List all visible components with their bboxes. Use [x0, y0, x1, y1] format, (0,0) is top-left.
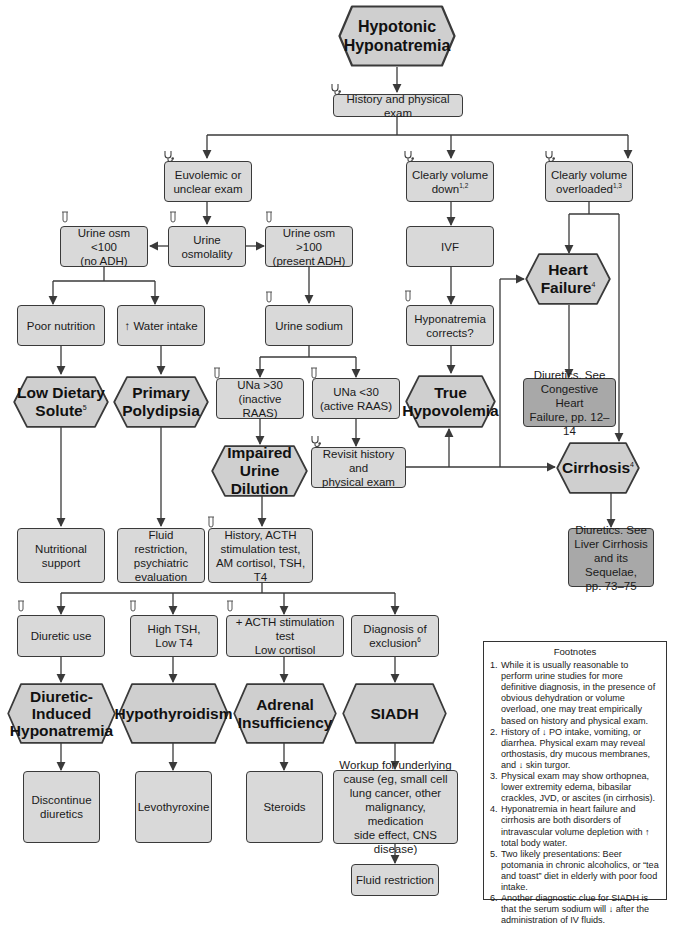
test-tube-icon: [205, 516, 217, 528]
test-tube-icon: [224, 600, 236, 612]
test-tube-icon: [402, 290, 414, 302]
footnote-3: Physical exam may show orthopnea, lower …: [500, 771, 661, 804]
fluid-restriction-box: Fluid restriction: [351, 864, 439, 896]
urine-sodium-box: Urine sodium: [265, 305, 353, 346]
test-tube-icon: [127, 600, 139, 612]
footnote-6: Another diagnostic clue for SIADH is tha…: [500, 893, 661, 926]
siadh-workup-box: Workup for underlyingcause (eg, small ce…: [333, 770, 458, 844]
footnote-2: History of ↓ PO intake, vomiting, or dia…: [500, 727, 661, 771]
diagnosis-exclusion-box: Diagnosis ofexclusion6: [351, 615, 439, 657]
test-tube-icon: [59, 211, 71, 223]
diuretic-use-box: Diuretic use: [17, 615, 105, 657]
footnotes-panel: Footnotes While it is usually reasonable…: [483, 641, 667, 900]
test-tube-icon: [263, 211, 275, 223]
workup-tests-box: History, ACTHstimulation test,AM cortiso…: [208, 528, 313, 583]
urine-osm-low-box: Urine osm <100(no ADH): [60, 226, 148, 267]
water-intake-box: ↑ Water intake: [117, 305, 205, 346]
steroids-box: Steroids: [246, 771, 323, 843]
footnotes-list: While it is usually reasonable to perfor…: [489, 660, 661, 926]
euvolemic-box: Euvolemic orunclear exam: [164, 161, 252, 202]
volume-down-box: Clearly volumedown1,2: [406, 161, 494, 202]
high-tsh-box: High TSH,Low T4: [130, 615, 218, 657]
primary-polydipsia-hex: PrimaryPolydipsia: [113, 376, 209, 428]
acth-test-box: + ACTH stimulation testLow cortisol: [226, 615, 344, 657]
footnote-4: Hyponatremia in heart failure and cirrho…: [500, 804, 661, 848]
urine-osmolality-box: Urineosmolality: [168, 226, 246, 267]
fluid-restriction-psych-box: Fluid restriction,psychiatricevaluation: [117, 528, 205, 583]
ivf-box: IVF: [406, 226, 494, 267]
nutritional-support-box: Nutritionalsupport: [17, 528, 105, 583]
volume-overloaded-box: Clearly volumeoverloaded1,3: [545, 161, 633, 202]
adrenal-insufficiency-hex: AdrenalInsufficiency: [233, 683, 337, 744]
siadh-hex: SIADH: [342, 683, 447, 744]
history-physical-exam-box: History and physical exam: [333, 94, 463, 117]
chf-treatment-box: Diuretics. SeeCongestive HeartFailure, p…: [523, 378, 616, 427]
title-hypotonic-hyponatremia: HypotonicHyponatremia: [338, 5, 456, 67]
hypothyroidism-hex: Hypothyroidism: [118, 683, 229, 744]
footnote-5: Two likely presentations: Beer potomania…: [500, 849, 661, 893]
footnote-1: While it is usually reasonable to perfor…: [500, 660, 661, 727]
una-high-box: UNa >30(inactive RAAS): [216, 378, 304, 419]
stethoscope-icon: [310, 435, 322, 447]
hyponatremia-corrects-box: Hyponatremiacorrects?: [406, 305, 494, 346]
revisit-history-box: Revisit history andphysical exam: [311, 447, 406, 488]
poor-nutrition-box: Poor nutrition: [17, 305, 105, 346]
urine-osm-high-box: Urine osm >100(present ADH): [265, 226, 353, 267]
low-dietary-solute-hex: Low DietarySolute5: [13, 376, 109, 428]
una-low-box: UNa <30(active RAAS): [312, 378, 400, 419]
true-hypovolemia-hex: TrueHypovolemia: [405, 375, 496, 428]
footnotes-title: Footnotes: [489, 646, 661, 657]
heart-failure-hex: HeartFailure4: [525, 253, 611, 305]
test-tube-icon: [15, 600, 27, 612]
test-tube-icon: [263, 291, 275, 303]
test-tube-icon: [167, 211, 179, 223]
impaired-urine-dilution-hex: ImpairedUrine Dilution: [211, 445, 308, 497]
cirrhosis-hex: Cirrhosis4: [556, 442, 640, 494]
discontinue-diuretics-box: Discontinuediuretics: [23, 771, 100, 843]
diuretic-induced-hyponatremia-hex: Diuretic-InducedHyponatremia: [7, 683, 116, 744]
cirrhosis-treatment-box: Diuretics. SeeLiver Cirrhosisand its Seq…: [568, 528, 654, 587]
levothyroxine-box: Levothyroxine: [135, 771, 212, 843]
